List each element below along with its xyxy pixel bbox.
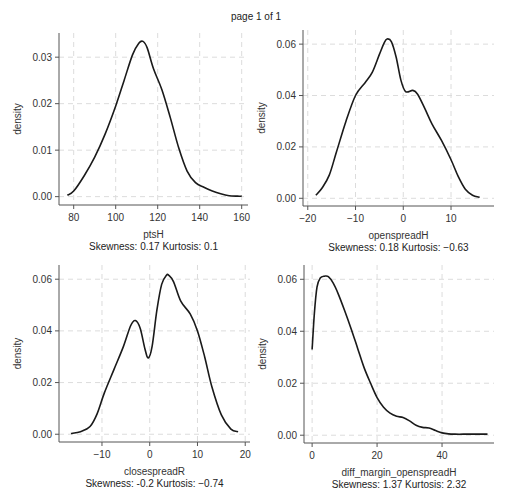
x-tick-label: 0 bbox=[147, 449, 153, 460]
panel-1: 0.000.010.020.0380100120140160densitypts… bbox=[12, 33, 250, 252]
density-curve bbox=[316, 39, 480, 197]
x-tick-label: −10 bbox=[347, 213, 364, 224]
y-tick-label: 0.03 bbox=[33, 52, 53, 63]
y-tick-label: 0.01 bbox=[33, 145, 53, 156]
x-axis-title: diff_margin_openspreadH bbox=[342, 467, 457, 478]
y-tick-label: 0.02 bbox=[33, 98, 53, 109]
y-tick-label: 0.00 bbox=[278, 430, 298, 441]
x-tick-label: 120 bbox=[149, 212, 166, 223]
density-curve bbox=[71, 274, 238, 433]
y-tick-label: 0.00 bbox=[33, 191, 53, 202]
y-tick-label: 0.02 bbox=[33, 377, 53, 388]
x-tick-label: 0 bbox=[309, 450, 315, 461]
x-tick-label: 160 bbox=[233, 212, 250, 223]
x-tick-label: 100 bbox=[107, 212, 124, 223]
y-tick-label: 0.00 bbox=[277, 193, 297, 204]
x-tick-label: 80 bbox=[68, 212, 80, 223]
x-tick-label: 20 bbox=[240, 449, 252, 460]
density-curve bbox=[312, 276, 487, 434]
x-tick-label: 0 bbox=[400, 213, 406, 224]
x-tick-label: −10 bbox=[93, 449, 110, 460]
x-axis-title: closespreadR bbox=[124, 466, 185, 477]
x-axis-title: ptsH bbox=[143, 229, 164, 240]
y-axis-title: density bbox=[12, 103, 23, 135]
y-tick-label: 0.06 bbox=[278, 274, 298, 285]
y-axis-title: density bbox=[12, 338, 23, 370]
x-tick-label: 40 bbox=[436, 450, 448, 461]
x-tick-label: 10 bbox=[445, 213, 457, 224]
x-tick-label: 140 bbox=[191, 212, 208, 223]
x-tick-label: 10 bbox=[192, 449, 204, 460]
x-tick-label: −20 bbox=[299, 213, 316, 224]
x-axis-title: openspreadH bbox=[368, 230, 428, 241]
stats-caption: Skewness: 0.17 Kurtosis: 0.1 bbox=[89, 241, 218, 252]
y-tick-label: 0.04 bbox=[277, 90, 297, 101]
y-axis-title: density bbox=[257, 338, 268, 370]
y-tick-label: 0.04 bbox=[278, 326, 298, 337]
panel-3: 0.000.020.040.06−1001020densityclosespre… bbox=[12, 265, 251, 489]
chart-canvas: 0.000.010.020.0380100120140160densitypts… bbox=[0, 0, 512, 501]
stats-caption: Skewness: 0.18 Kurtosis: −0.63 bbox=[328, 242, 469, 253]
y-tick-label: 0.02 bbox=[277, 141, 297, 152]
y-tick-label: 0.06 bbox=[277, 39, 297, 50]
y-tick-label: 0.00 bbox=[33, 429, 53, 440]
y-tick-label: 0.06 bbox=[33, 274, 53, 285]
y-tick-label: 0.04 bbox=[33, 325, 53, 336]
x-tick-label: 20 bbox=[372, 450, 384, 461]
panel-4: 0.000.020.040.0602040densitydiff_margin_… bbox=[257, 265, 494, 490]
y-axis-title: density bbox=[256, 102, 267, 134]
density-curve bbox=[67, 41, 241, 196]
y-tick-label: 0.02 bbox=[278, 378, 298, 389]
stats-caption: Skewness: -0.2 Kurtosis: −0.74 bbox=[85, 478, 224, 489]
panel-2: 0.000.020.040.06−20−10010densityopenspre… bbox=[256, 30, 494, 253]
stats-caption: Skewness: 1.37 Kurtosis: 2.32 bbox=[332, 479, 467, 490]
